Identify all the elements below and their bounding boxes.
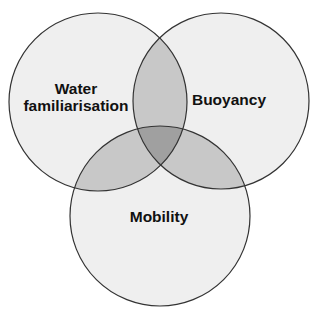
label-mobility: Mobility — [130, 208, 189, 225]
label-familiarisation: familiarisation — [23, 97, 128, 114]
label-water: Water — [55, 80, 98, 97]
venn-diagram: Water familiarisation Buoyancy Mobility — [0, 0, 317, 314]
label-buoyancy: Buoyancy — [192, 91, 266, 108]
